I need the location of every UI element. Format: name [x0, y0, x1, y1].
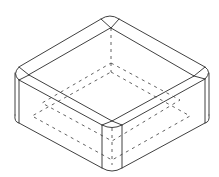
isometric-box-drawing: Isometric view of a square box with roun…: [0, 0, 219, 177]
top-face-outline: [16, 16, 209, 128]
top-face-inner: [19, 19, 205, 125]
box-drawing-svg: [0, 0, 219, 177]
